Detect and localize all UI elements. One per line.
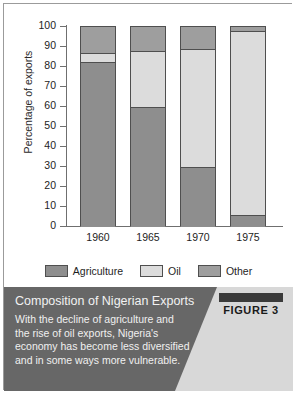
legend-label: Other: [226, 265, 252, 277]
y-axis-tick: [60, 86, 66, 87]
y-axis-tick-label: 60: [20, 100, 56, 111]
y-axis-tick: [60, 186, 66, 187]
bar-segment-agriculture: [181, 167, 215, 227]
y-axis-tick: [60, 26, 66, 27]
legend-item: Other: [198, 265, 252, 277]
y-axis-tick: [60, 166, 66, 167]
y-axis-tick: [60, 146, 66, 147]
figure-badge-bar: [219, 293, 283, 302]
caption-title: Composition of Nigerian Exports: [15, 294, 194, 308]
legend-swatch: [198, 265, 221, 277]
y-axis-tick-label: 70: [20, 80, 56, 91]
chart-legend: AgricultureOilOther: [4, 260, 293, 282]
bar-segment-other: [131, 27, 165, 51]
figure-number-label: FIGURE 3: [219, 304, 283, 316]
legend-item: Oil: [140, 265, 181, 277]
y-axis-tick-label: 10: [20, 200, 56, 211]
caption-band: Composition of Nigerian Exports With the…: [4, 287, 293, 391]
y-axis-tick-label: 20: [20, 180, 56, 191]
bar-segment-oil: [131, 51, 165, 107]
figure-frame: Percentage of exports 010203040506070809…: [3, 3, 292, 390]
y-axis-tick: [60, 226, 66, 227]
stacked-bar: [130, 26, 166, 226]
bar-segment-oil: [181, 49, 215, 167]
bar-segment-oil: [231, 31, 265, 215]
bar-segment-agriculture: [231, 215, 265, 227]
legend-label: Agriculture: [73, 265, 123, 277]
stacked-bar: [180, 26, 216, 226]
y-axis-tick-label: 100: [20, 20, 56, 31]
chart-panel: Percentage of exports 010203040506070809…: [4, 4, 293, 287]
y-axis-tick: [60, 106, 66, 107]
y-axis-line: [66, 25, 67, 227]
y-axis-tick-label: 40: [20, 140, 56, 151]
legend-swatch: [140, 265, 163, 277]
legend-swatch: [45, 265, 68, 277]
stacked-bar: [80, 26, 116, 226]
y-axis-tick-label: 0: [20, 220, 56, 231]
bar-segment-other: [81, 27, 115, 53]
y-axis-tick: [60, 46, 66, 47]
y-axis-tick-label: 30: [20, 160, 56, 171]
y-axis-tick: [60, 66, 66, 67]
y-axis-tick: [60, 206, 66, 207]
caption-body: With the decline of agriculture and the …: [15, 313, 190, 367]
figure-badge: FIGURE 3: [219, 293, 283, 316]
legend-item: Agriculture: [45, 265, 123, 277]
y-axis-tick: [60, 126, 66, 127]
y-axis-tick-label: 90: [20, 40, 56, 51]
bar-segment-agriculture: [131, 107, 165, 227]
bar-segment-oil: [81, 53, 115, 62]
bar-segment-agriculture: [81, 62, 115, 227]
legend-label: Oil: [168, 265, 181, 277]
y-axis-tick-label: 50: [20, 120, 56, 131]
x-axis-tick-label: 1975: [218, 231, 278, 243]
bar-segment-other: [181, 27, 215, 49]
figure-page: Percentage of exports 010203040506070809…: [0, 0, 295, 393]
stacked-bar: [230, 26, 266, 226]
y-axis-tick-label: 80: [20, 60, 56, 71]
